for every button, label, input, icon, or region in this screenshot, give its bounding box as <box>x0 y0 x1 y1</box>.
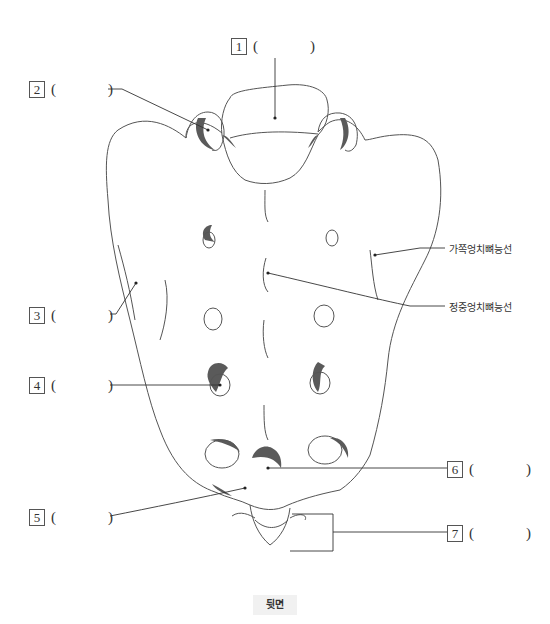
blank-7[interactable]: 7 () <box>447 524 531 542</box>
number-box-1: 1 <box>231 38 247 55</box>
number-box-2: 2 <box>29 81 45 98</box>
blank-6[interactable]: 6 () <box>447 460 531 478</box>
foramen-l2 <box>204 308 222 330</box>
number-box-5: 5 <box>29 509 45 526</box>
blank-4[interactable]: 4 () <box>29 376 113 394</box>
number-box-6: 6 <box>447 461 463 478</box>
lateral-sacral-crest-label: 가쪽엉치뼈능선 <box>449 241 512 256</box>
view-label: 뒷면 <box>253 595 297 615</box>
foramen-r4 <box>308 436 342 464</box>
blank-2[interactable]: 2 () <box>29 80 113 98</box>
blank-1[interactable]: 1 () <box>231 37 315 55</box>
number-box-3: 3 <box>29 307 45 324</box>
number-box-4: 4 <box>29 377 45 394</box>
median-sacral-crest-label: 정중엉치뼈능선 <box>449 299 512 314</box>
blank-5[interactable]: 5 () <box>29 508 113 526</box>
foramen-r1 <box>326 230 338 246</box>
coccyx <box>250 505 290 545</box>
number-box-7: 7 <box>447 525 463 542</box>
blank-3[interactable]: 3 () <box>29 306 113 324</box>
right-articular-process <box>318 113 357 151</box>
foramen-r2 <box>314 305 334 327</box>
foramen-l4 <box>205 440 239 468</box>
